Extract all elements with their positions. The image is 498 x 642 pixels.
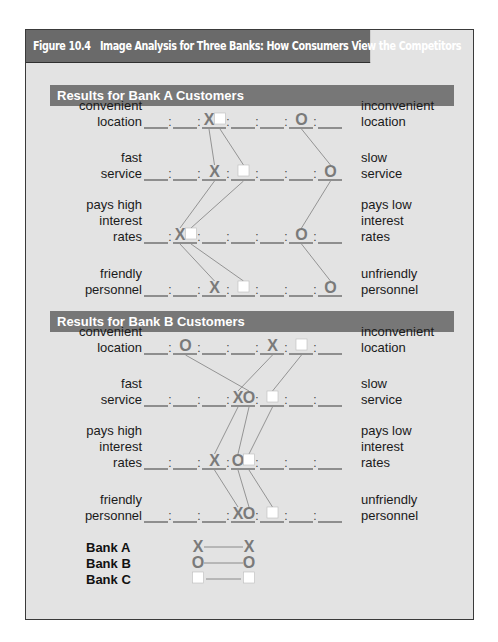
- o-mark-icon: O: [232, 452, 244, 469]
- scale-separator: :: [168, 393, 171, 407]
- legend-label-bank-b: Bank B: [86, 556, 131, 572]
- connector-line: [238, 355, 273, 391]
- scale-separator: :: [197, 509, 200, 523]
- x-mark-icon: X: [209, 452, 220, 469]
- scale-separator: :: [168, 167, 171, 181]
- connector-line: [302, 129, 331, 165]
- scale-separator: :: [168, 456, 171, 470]
- scale-separator: :: [255, 456, 258, 470]
- scale-separator: :: [313, 341, 316, 355]
- square-mark-icon: [244, 454, 255, 465]
- scale-separator: :: [226, 509, 229, 523]
- scale-separator: :: [255, 341, 258, 355]
- scale-separator: :: [255, 167, 258, 181]
- connector-line: [302, 244, 331, 281]
- square-mark-icon: [238, 165, 249, 176]
- scale-separator: :: [168, 341, 171, 355]
- connector-line: [215, 407, 239, 454]
- x-mark-icon: X: [204, 111, 215, 128]
- scale-separator: :: [168, 115, 171, 129]
- x-mark-icon: X: [193, 538, 204, 555]
- scale-separator: :: [197, 341, 200, 355]
- connector-line: [220, 129, 244, 165]
- scale-separator: :: [197, 456, 200, 470]
- o-mark-icon: O: [192, 554, 204, 571]
- scale-separator: :: [313, 283, 316, 297]
- scale-separator: :: [313, 115, 316, 129]
- o-mark-icon: O: [295, 226, 307, 243]
- scale-separator: :: [197, 393, 200, 407]
- x-mark-icon: X: [175, 226, 186, 243]
- connector-line: [191, 181, 244, 228]
- o-mark-icon: O: [324, 279, 336, 296]
- scale-separator: :: [168, 230, 171, 244]
- scale-separator: :: [313, 230, 316, 244]
- x-mark-icon: X: [209, 279, 220, 296]
- scale-separator: :: [226, 115, 229, 129]
- connector-line: [302, 181, 331, 228]
- square-mark-icon: [296, 339, 307, 350]
- scale-separator: :: [284, 115, 287, 129]
- scale-separator: :: [284, 230, 287, 244]
- o-mark-icon: O: [243, 554, 255, 571]
- connector-line: [238, 407, 249, 454]
- scale-separator: :: [226, 167, 229, 181]
- x-mark-icon: X: [209, 163, 220, 180]
- legend-label-bank-c: Bank C: [86, 572, 131, 588]
- connector-line: [238, 470, 249, 507]
- scale-separator: :: [255, 393, 258, 407]
- scale-separator: :: [313, 393, 316, 407]
- square-mark-icon: [186, 228, 197, 239]
- scale-separator: :: [226, 341, 229, 355]
- scale-separator: :: [197, 115, 200, 129]
- scale-separator: :: [168, 283, 171, 297]
- connector-line: [191, 244, 244, 281]
- rating-plot: ::::::::::::::::::::::::XOXOXOXO::::::::…: [26, 30, 475, 621]
- scale-separator: :: [168, 509, 171, 523]
- scale-separator: :: [226, 283, 229, 297]
- connector-line: [215, 470, 239, 507]
- square-mark-icon: [238, 281, 249, 292]
- scale-separator: :: [284, 341, 287, 355]
- scale-separator: :: [255, 115, 258, 129]
- connector-line: [249, 470, 273, 507]
- o-mark-icon: O: [243, 389, 255, 406]
- o-mark-icon: O: [179, 337, 191, 354]
- connector-line: [180, 181, 215, 228]
- o-mark-icon: O: [324, 163, 336, 180]
- o-mark-icon: O: [243, 505, 255, 522]
- scale-separator: :: [226, 456, 229, 470]
- scale-separator: :: [284, 167, 287, 181]
- scale-separator: :: [284, 509, 287, 523]
- connector-line: [249, 407, 273, 454]
- scale-separator: :: [284, 283, 287, 297]
- x-mark-icon: X: [244, 538, 255, 555]
- scale-separator: :: [255, 509, 258, 523]
- square-mark-icon: [267, 507, 278, 518]
- scale-separator: :: [313, 167, 316, 181]
- scale-separator: :: [197, 283, 200, 297]
- scale-separator: :: [284, 456, 287, 470]
- connector-line: [273, 355, 302, 391]
- scale-separator: :: [226, 393, 229, 407]
- scale-separator: :: [197, 167, 200, 181]
- square-mark-icon: [267, 391, 278, 402]
- scale-separator: :: [255, 230, 258, 244]
- connector-line: [180, 244, 215, 281]
- square-mark-icon: [193, 572, 204, 583]
- scale-separator: :: [226, 230, 229, 244]
- figure-frame: Figure 10.4Image Analysis for Three Bank…: [25, 29, 474, 620]
- scale-separator: :: [255, 283, 258, 297]
- square-mark-icon: [215, 113, 226, 124]
- square-mark-icon: [244, 572, 255, 583]
- scale-separator: :: [313, 456, 316, 470]
- connector-line: [186, 355, 250, 391]
- scale-separator: :: [197, 230, 200, 244]
- x-mark-icon: X: [267, 337, 278, 354]
- scale-separator: :: [284, 393, 287, 407]
- legend-label-bank-a: Bank A: [86, 540, 130, 556]
- scale-separator: :: [313, 509, 316, 523]
- o-mark-icon: O: [295, 111, 307, 128]
- connector-line: [209, 129, 215, 165]
